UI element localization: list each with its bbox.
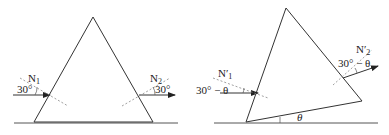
angle-arc-in (35, 87, 37, 95)
prism-diagrams (0, 0, 389, 135)
label-n2-prime: N′2 (356, 44, 370, 57)
label-angle-in: 30° (17, 84, 32, 95)
label-n1-prime: N′1 (218, 68, 232, 81)
label-angle-out: 30° (155, 84, 170, 95)
left-figure (13, 17, 178, 123)
label-angle-in: 30° − θ (196, 85, 228, 96)
label-theta: θ (297, 112, 302, 123)
prism-triangle (34, 17, 153, 122)
label-angle-out: 30° − θ (338, 58, 370, 69)
